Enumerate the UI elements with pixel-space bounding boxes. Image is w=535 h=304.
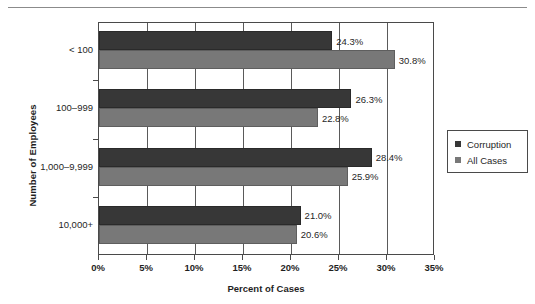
legend-label: Corruption <box>467 139 511 150</box>
bar-all-cases <box>99 108 318 127</box>
category-labels: < 100100–9991,000–9,99910,000+ <box>0 0 93 304</box>
bar-corruption <box>99 89 351 108</box>
x-axis-tick-label: 20% <box>270 262 310 273</box>
x-axis-tick <box>98 255 99 260</box>
legend-swatch-icon <box>455 157 461 163</box>
bar-corruption <box>99 148 372 167</box>
bar-all-cases <box>99 50 395 69</box>
x-axis-tick-label: 10% <box>174 262 214 273</box>
x-axis-tick <box>194 255 195 260</box>
bar-all-cases <box>99 225 297 244</box>
bar-value-label: 30.8% <box>399 54 426 65</box>
y-axis-category-label: < 100 <box>5 44 93 55</box>
x-axis-tick <box>338 255 339 260</box>
bar-value-label: 22.8% <box>322 112 349 123</box>
y-axis-tick <box>93 197 98 198</box>
bar-corruption <box>99 206 301 225</box>
bar-value-label: 25.9% <box>352 171 379 182</box>
y-axis-tick <box>93 80 98 81</box>
legend-item[interactable]: All Cases <box>455 152 527 168</box>
x-axis-title: Percent of Cases <box>98 283 434 294</box>
plot-area: 24.3%30.8%26.3%22.8%28.4%25.9%21.0%20.6% <box>98 22 434 255</box>
bar-all-cases <box>99 167 348 186</box>
x-axis-tick <box>242 255 243 260</box>
x-axis-tick-label: 25% <box>318 262 358 273</box>
x-axis-tick <box>290 255 291 260</box>
x-axis-tick <box>434 255 435 260</box>
legend-swatch-icon <box>455 141 461 147</box>
chart-legend: CorruptionAll Cases <box>447 130 528 173</box>
y-axis-category-label: 10,000+ <box>5 218 93 229</box>
x-axis-tick-label: 5% <box>126 262 166 273</box>
x-axis-tick-label: 30% <box>366 262 406 273</box>
bar-value-label: 26.3% <box>355 93 382 104</box>
x-axis-tick-label: 0% <box>78 262 118 273</box>
x-axis-tick <box>386 255 387 260</box>
bar-value-label: 24.3% <box>336 35 363 46</box>
x-axis-tick <box>146 255 147 260</box>
legend-label: All Cases <box>467 155 507 166</box>
y-axis-category-label: 1,000–9,999 <box>5 160 93 171</box>
x-axis-tick-label: 15% <box>222 262 262 273</box>
bar-value-label: 28.4% <box>376 152 403 163</box>
bar-value-label: 21.0% <box>305 210 332 221</box>
legend-item[interactable]: Corruption <box>455 136 527 152</box>
bar-corruption <box>99 31 332 50</box>
bar-value-label: 20.6% <box>301 229 328 240</box>
y-axis-tick <box>93 139 98 140</box>
x-axis-tick-label: 35% <box>414 262 454 273</box>
y-axis-category-label: 100–999 <box>5 102 93 113</box>
